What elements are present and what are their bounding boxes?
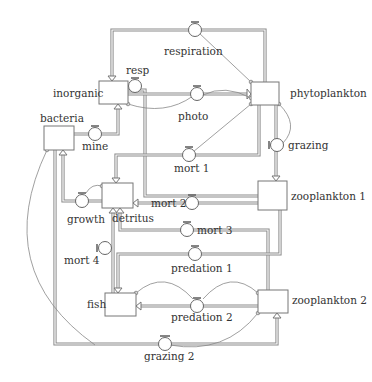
label-phytoplankton: phytoplankton [290, 87, 367, 99]
label-predation1: predation 1 [171, 262, 233, 274]
label-mine: mine [82, 140, 108, 152]
stock-flow-diagram: respiration resp photo mine grazing mort… [0, 0, 372, 382]
valve-grazing[interactable] [269, 139, 284, 152]
stock-bacteria[interactable] [44, 126, 74, 150]
valve-respiration[interactable] [189, 22, 202, 37]
valve-mort3[interactable] [181, 222, 194, 237]
label-grazing2: grazing 2 [144, 350, 194, 362]
label-fish: fish [87, 298, 106, 310]
label-zooplankton2: zooplankton 2 [292, 294, 367, 306]
label-mort4: mort 4 [64, 254, 100, 266]
stock-fish[interactable] [105, 293, 136, 316]
label-bacteria: bacteria [40, 112, 84, 124]
valve-growth[interactable] [76, 193, 89, 208]
label-zooplankton1: zooplankton 1 [291, 190, 366, 202]
valve-mine[interactable] [89, 126, 102, 141]
valve-mort1[interactable] [183, 147, 196, 162]
label-photo: photo [178, 110, 208, 122]
valve-grazing2[interactable] [159, 336, 172, 351]
label-growth: growth [67, 213, 105, 225]
label-predation2: predation 2 [171, 311, 233, 323]
label-mort2: mort 2 [151, 197, 187, 209]
label-detritus: detritus [112, 212, 154, 224]
stock-zooplankton2[interactable] [258, 290, 288, 313]
label-inorganic: inorganic [53, 87, 104, 99]
valve-predation1[interactable] [189, 246, 202, 261]
valve-photo[interactable] [191, 86, 204, 101]
info-links [27, 32, 291, 347]
label-mort3: mort 3 [197, 224, 233, 236]
label-mort1: mort 1 [174, 162, 210, 174]
label-grazing: grazing [288, 139, 329, 151]
valve-mort4[interactable] [97, 242, 112, 255]
stock-zooplankton1[interactable] [258, 181, 287, 210]
valve-resp[interactable] [129, 78, 142, 93]
label-respiration: respiration [164, 45, 223, 57]
stock-detritus[interactable] [102, 183, 133, 208]
label-resp: resp [126, 64, 150, 76]
stock-phytoplankton[interactable] [251, 82, 279, 105]
